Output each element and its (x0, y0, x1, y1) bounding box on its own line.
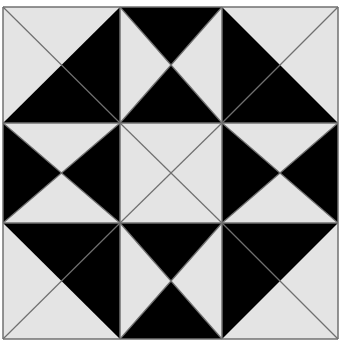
quilt-pattern (0, 0, 342, 342)
